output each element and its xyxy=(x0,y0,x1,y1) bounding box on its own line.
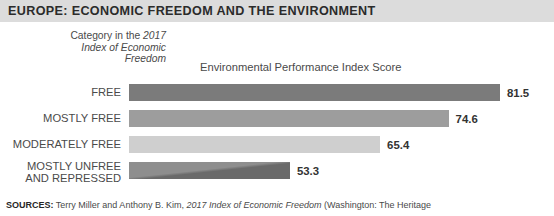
bar-mostly-unfree-and-repressed xyxy=(129,162,290,179)
category-label-mostly-unfree-and-repressed: MOSTLY UNFREE AND REPRESSED xyxy=(0,160,121,183)
bar-track: 53.3 xyxy=(129,162,554,179)
caption-line1-italic: 2017 xyxy=(143,30,166,41)
bar-track: 74.6 xyxy=(129,110,554,127)
bar-free xyxy=(129,84,500,101)
caption-line2-italic: Index of Economic xyxy=(81,42,166,53)
bar-plot-area: FREE 81.5 MOSTLY FREE 74.6 MODERATELY FR… xyxy=(0,82,554,182)
category-label-moderately-free: MODERATELY FREE xyxy=(0,134,121,156)
category-axis-caption: Category in the 2017 Index of Economic F… xyxy=(6,30,166,65)
bar-row: MODERATELY FREE 65.4 xyxy=(0,134,554,156)
sources-label: SOURCES: xyxy=(6,200,54,210)
chart-figure: EUROPE: ECONOMIC FREEDOM AND THE ENVIRON… xyxy=(0,0,554,216)
sources-note: SOURCES: Terry Miller and Anthony B. Kim… xyxy=(6,200,554,211)
bar-value-moderately-free: 65.4 xyxy=(387,136,409,153)
bar-track: 81.5 xyxy=(129,84,554,101)
category-label-mostly-free: MOSTLY FREE xyxy=(0,108,121,130)
bar-row: MOSTLY UNFREE AND REPRESSED 53.3 xyxy=(0,160,554,182)
bar-moderately-free xyxy=(129,136,380,153)
caption-line3-italic: Freedom xyxy=(125,53,166,64)
category-label-free: FREE xyxy=(0,82,121,104)
sources-text-before: Terry Miller and Anthony B. Kim, xyxy=(54,200,187,210)
bar-mostly-free xyxy=(129,110,449,127)
value-axis-label: Environmental Performance Index Score xyxy=(200,61,401,73)
bar-value-free: 81.5 xyxy=(507,84,529,101)
caption-line1-plain: Category in the xyxy=(70,30,143,41)
bar-value-mostly-unfree-and-repressed: 53.3 xyxy=(297,162,319,179)
bar-track: 65.4 xyxy=(129,136,554,153)
chart-title: EUROPE: ECONOMIC FREEDOM AND THE ENVIRON… xyxy=(8,4,376,18)
bar-row: MOSTLY FREE 74.6 xyxy=(0,108,554,130)
bar-value-mostly-free: 74.6 xyxy=(456,110,478,127)
title-banner: EUROPE: ECONOMIC FREEDOM AND THE ENVIRON… xyxy=(0,0,554,22)
bar-row: FREE 81.5 xyxy=(0,82,554,104)
sources-italic-title: 2017 Index of Economic Freedom xyxy=(186,200,321,210)
sources-text-after: (Washington: The Heritage xyxy=(321,200,431,210)
